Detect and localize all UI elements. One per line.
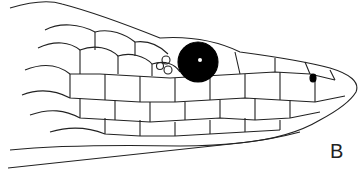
head-top-outline <box>8 2 357 168</box>
snake-head-figure: B <box>0 0 364 171</box>
snake-head-drawing <box>0 0 364 171</box>
panel-label: B <box>330 140 343 163</box>
scales <box>22 25 345 136</box>
nostril <box>310 74 316 82</box>
eye-highlight <box>198 58 202 62</box>
eye <box>178 42 218 82</box>
jaw-line <box>10 132 300 150</box>
